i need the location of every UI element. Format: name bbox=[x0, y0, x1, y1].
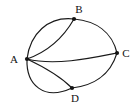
edge-d-c bbox=[72, 53, 117, 88]
edge-a-b-outer bbox=[27, 19, 74, 59]
edge-a-d-outer bbox=[27, 59, 72, 93]
graph-canvas: A B C D bbox=[0, 0, 137, 107]
edge-b-c bbox=[74, 19, 117, 53]
vertex-label-b: B bbox=[75, 3, 82, 15]
vertex-d-dot bbox=[70, 86, 74, 90]
vertex-a-dot bbox=[25, 57, 29, 61]
vertex-label-c: C bbox=[122, 47, 129, 59]
graph-figure: A B C D bbox=[0, 0, 137, 107]
edge-a-b-inner bbox=[27, 19, 74, 59]
vertex-label-a: A bbox=[10, 53, 18, 65]
edge-group bbox=[27, 19, 117, 93]
vertex-label-d: D bbox=[71, 92, 79, 104]
edge-a-c bbox=[27, 53, 117, 62]
vertex-c-dot bbox=[115, 51, 119, 55]
vertex-b-dot bbox=[72, 17, 76, 21]
